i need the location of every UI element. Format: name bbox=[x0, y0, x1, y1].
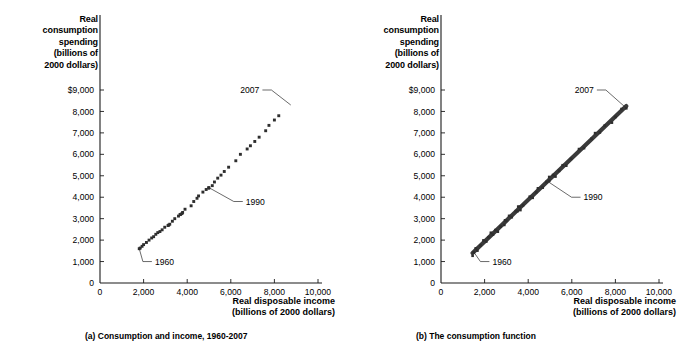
data-point-marker bbox=[474, 247, 477, 250]
data-point-marker bbox=[264, 129, 267, 132]
data-point-marker bbox=[531, 197, 534, 200]
annotation-label: 1960 bbox=[492, 257, 511, 267]
data-point-marker bbox=[234, 159, 237, 162]
data-point-marker bbox=[570, 158, 573, 161]
data-point-marker bbox=[476, 249, 479, 252]
data-point-marker bbox=[561, 164, 564, 167]
y-tick-label: 7,000 bbox=[413, 128, 435, 138]
data-point-marker bbox=[516, 210, 519, 213]
y-tick-label: 0 bbox=[430, 278, 435, 288]
data-point-marker bbox=[148, 239, 151, 242]
data-point-marker bbox=[499, 225, 502, 228]
data-point-marker bbox=[192, 200, 195, 203]
data-point-marker bbox=[494, 229, 497, 232]
data-point-marker bbox=[535, 191, 538, 194]
y-tick-label: 1,000 bbox=[413, 257, 435, 267]
data-point-marker bbox=[611, 121, 614, 124]
data-point-marker bbox=[578, 148, 581, 151]
data-point-marker bbox=[171, 220, 174, 223]
annotation-leader-line bbox=[262, 90, 290, 105]
data-point-marker bbox=[220, 174, 223, 177]
data-point-marker bbox=[492, 233, 495, 236]
data-point-marker bbox=[273, 119, 276, 122]
data-point-marker bbox=[614, 116, 617, 119]
panel-b-consumption-function: Real consumption spending (billions of 2… bbox=[341, 0, 682, 361]
data-point-marker bbox=[487, 236, 490, 239]
data-point-marker bbox=[545, 181, 548, 184]
data-point-marker bbox=[213, 181, 216, 184]
data-point-marker bbox=[246, 148, 249, 151]
data-point-marker bbox=[190, 204, 193, 207]
data-point-marker bbox=[497, 230, 500, 233]
data-point-marker bbox=[537, 187, 540, 190]
data-point-marker bbox=[277, 114, 280, 117]
data-point-marker bbox=[583, 147, 586, 150]
data-point-marker bbox=[558, 170, 561, 173]
data-point-marker bbox=[239, 153, 242, 156]
data-point-marker bbox=[510, 216, 513, 219]
data-point-marker bbox=[161, 228, 164, 231]
data-point-marker bbox=[184, 208, 187, 211]
data-point-marker bbox=[541, 186, 544, 189]
data-point-marker bbox=[205, 188, 208, 191]
data-point-marker bbox=[253, 140, 256, 143]
annotation-leader-line bbox=[139, 249, 152, 262]
data-point-marker bbox=[142, 243, 145, 246]
annotation-label: 1990 bbox=[584, 192, 603, 202]
data-point-marker bbox=[519, 209, 522, 212]
data-point-marker bbox=[620, 108, 623, 111]
y-tick-label: 4,000 bbox=[413, 192, 435, 202]
consumption-function-figure: Real consumption spending (billions of 2… bbox=[0, 0, 682, 361]
panel-b-caption: (b) The consumption function bbox=[416, 331, 536, 341]
data-point-marker bbox=[163, 226, 166, 229]
data-point-marker bbox=[552, 174, 555, 177]
x-tick-label: 0 bbox=[98, 287, 103, 297]
data-point-marker bbox=[590, 138, 593, 141]
data-point-marker bbox=[471, 254, 474, 257]
data-point-marker bbox=[482, 239, 485, 242]
data-point-marker bbox=[505, 220, 508, 223]
data-point-marker bbox=[258, 136, 261, 139]
data-point-marker bbox=[145, 241, 148, 244]
data-point-marker bbox=[485, 240, 488, 243]
panel-b-x-axis-title: Real disposable income (billions of 2000… bbox=[491, 296, 676, 319]
data-point-marker bbox=[197, 194, 200, 197]
data-point-marker bbox=[227, 166, 230, 169]
data-point-marker bbox=[479, 244, 482, 247]
data-point-marker bbox=[211, 184, 214, 187]
data-point-marker bbox=[249, 144, 252, 147]
data-point-marker bbox=[508, 215, 511, 218]
annotation-leader-line bbox=[209, 188, 243, 202]
data-point-marker bbox=[603, 124, 606, 127]
y-tick-label: 7,000 bbox=[72, 128, 94, 138]
annotation-label: 1990 bbox=[246, 197, 265, 207]
y-tick-label: 8,000 bbox=[413, 107, 435, 117]
data-point-marker bbox=[554, 175, 557, 178]
panel-a-caption: (a) Consumption and income, 1960-2007 bbox=[85, 331, 247, 341]
y-tick-label: 8,000 bbox=[72, 107, 94, 117]
data-point-marker bbox=[168, 223, 171, 226]
annotation-label: 2007 bbox=[575, 85, 594, 95]
y-tick-label: 4,000 bbox=[72, 192, 94, 202]
y-tick-label: 5,000 bbox=[413, 171, 435, 181]
y-tick-label: 2,000 bbox=[72, 235, 94, 245]
y-tick-label: 3,000 bbox=[72, 214, 94, 224]
y-tick-label: 1,000 bbox=[72, 257, 94, 267]
data-point-marker bbox=[625, 107, 628, 110]
annotation-leader-line bbox=[549, 182, 581, 197]
data-point-marker bbox=[503, 224, 506, 227]
data-point-marker bbox=[268, 124, 271, 127]
y-tick-label: 5,000 bbox=[72, 171, 94, 181]
y-tick-label: 2,000 bbox=[413, 235, 435, 245]
data-point-marker bbox=[528, 195, 531, 198]
panel-a-data-points bbox=[138, 114, 280, 250]
y-tick-label: 0 bbox=[89, 278, 94, 288]
data-point-marker bbox=[594, 132, 597, 135]
y-tick-label: $9,000 bbox=[409, 85, 436, 95]
panel-a-x-axis-title: Real disposable income (billions of 2000… bbox=[150, 296, 335, 319]
data-point-marker bbox=[181, 211, 184, 214]
annotation-label: 1960 bbox=[155, 257, 174, 267]
data-point-marker bbox=[216, 177, 219, 180]
data-point-marker bbox=[223, 170, 226, 173]
x-tick-label: 0 bbox=[439, 287, 444, 297]
